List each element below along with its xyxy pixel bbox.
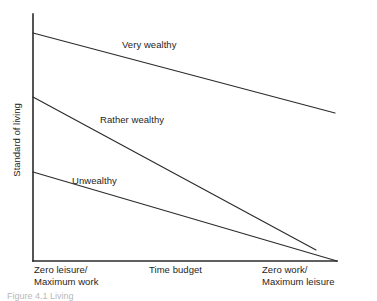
series-label-very-wealthy: Very wealthy	[122, 39, 176, 51]
series-line-rather-wealthy	[33, 97, 316, 250]
y-axis-label-text: Standard of living	[11, 103, 22, 176]
figure-caption: Figure 4.1 Living	[7, 291, 74, 301]
x-axis-label-left: Zero leisure/ Maximum work	[34, 264, 98, 288]
x-axis-label-right: Zero work/ Maximum leisure	[262, 264, 335, 288]
chart-plot-area	[0, 0, 377, 301]
x-axis-label-right-line1: Zero work/	[262, 264, 335, 276]
y-axis-label: Standard of living	[8, 92, 24, 188]
series-label-rather-wealthy: Rather wealthy	[100, 114, 164, 126]
x-axis-label-right-line2: Maximum leisure	[262, 276, 335, 288]
x-axis-label-left-line2: Maximum work	[34, 276, 98, 288]
series-line-very-wealthy	[33, 33, 335, 113]
series-label-unwealthy: Unwealthy	[72, 175, 117, 187]
x-axis-label-left-line1: Zero leisure/	[34, 264, 98, 276]
x-axis-label-center: Time budget	[149, 264, 202, 276]
figure-container: Standard of living Very wealthy Rather w…	[0, 0, 377, 301]
